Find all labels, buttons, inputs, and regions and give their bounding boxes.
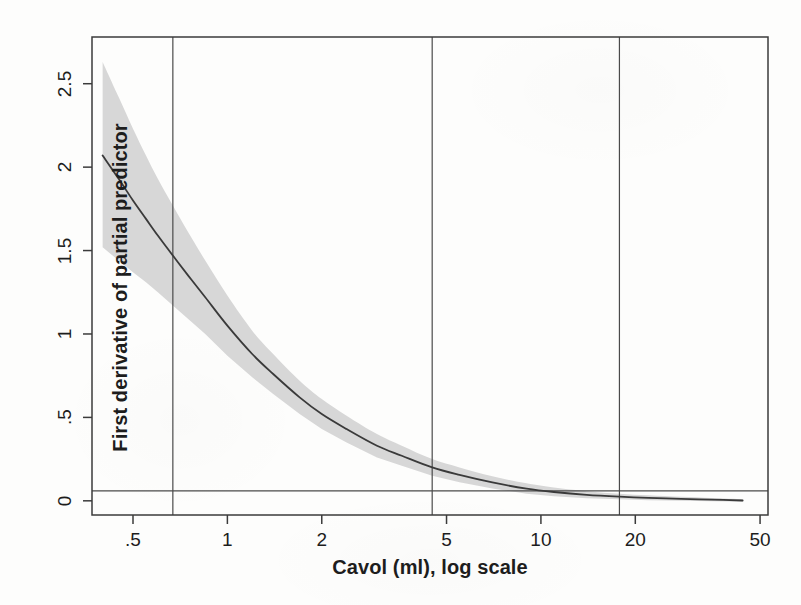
y-tick-label-2: 1 — [54, 304, 76, 364]
y-tick-label-1: .5 — [54, 387, 76, 447]
x-tick-label-0: .5 — [103, 529, 163, 551]
figure-container: First derivative of partial predictor Ca… — [0, 0, 801, 605]
y-axis-title: First derivative of partial predictor — [109, 58, 132, 518]
y-tick-label-3: 1.5 — [54, 221, 76, 281]
y-tick-label-0: 0 — [54, 471, 76, 531]
x-tick-label-3: 5 — [417, 529, 477, 551]
x-tick-label-1: 1 — [197, 529, 257, 551]
x-tick-label-4: 10 — [511, 529, 571, 551]
x-tick-label-6: 50 — [730, 529, 790, 551]
x-tick-label-5: 20 — [605, 529, 665, 551]
x-tick-label-2: 2 — [292, 529, 352, 551]
x-axis-title: Cavol (ml), log scale — [92, 556, 768, 579]
confidence-band — [103, 62, 743, 502]
y-tick-label-5: 2.5 — [54, 54, 76, 114]
y-tick-label-4: 2 — [54, 137, 76, 197]
